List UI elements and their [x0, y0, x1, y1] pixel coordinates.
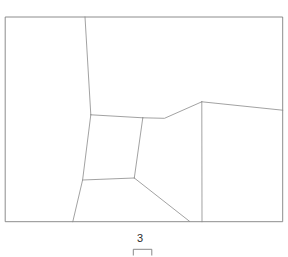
parcel-map-svg [0, 0, 288, 257]
map-frame-background [6, 17, 283, 222]
scale-bar-bracket [133, 249, 152, 255]
figure-root: 3 [0, 0, 288, 257]
scale-bar-label: 3 [120, 232, 160, 244]
